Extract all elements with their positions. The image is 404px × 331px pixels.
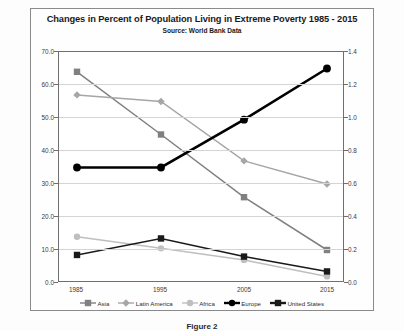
- y-axis-right-tick: 0.2: [348, 246, 374, 253]
- legend-label: Africa: [199, 300, 215, 307]
- legend-item-latin-america[interactable]: Latin America: [118, 299, 172, 307]
- y-axis-right-tick: 0.8: [348, 147, 374, 154]
- data-point: [275, 300, 281, 306]
- data-point: [323, 180, 330, 187]
- data-point: [85, 300, 91, 306]
- figure-caption: Figure 2: [0, 322, 404, 331]
- data-point: [74, 69, 80, 75]
- chart-legend: AsiaLatin AmericaAfricaEuropeUnited Stat…: [30, 299, 374, 307]
- legend-marker-circle-icon: [182, 299, 198, 307]
- legend-label: Europe: [241, 300, 261, 307]
- y-axis-right-tick: 0.0: [348, 279, 374, 286]
- y-axis-right-tick: 1.2: [348, 81, 374, 88]
- gridline: [59, 150, 343, 151]
- gridline: [59, 117, 343, 118]
- y-axis-left-tick: 50.0: [14, 114, 54, 121]
- x-axis-tick: 1995: [153, 286, 167, 293]
- y-axis-right-tick: 1.0: [348, 114, 374, 121]
- data-point: [241, 253, 247, 259]
- legend-item-africa[interactable]: Africa: [182, 299, 215, 307]
- y-axis-left-tick: 0.0: [14, 279, 54, 286]
- legend-label: Asia: [97, 300, 109, 307]
- data-point: [241, 194, 247, 200]
- legend-item-asia[interactable]: Asia: [80, 299, 109, 307]
- data-point: [123, 299, 130, 306]
- gridline: [59, 216, 343, 217]
- legend-label: United States: [287, 300, 324, 307]
- chart-title: Changes in Percent of Population Living …: [30, 14, 374, 24]
- legend-label: Latin America: [136, 300, 173, 307]
- data-point: [158, 235, 164, 241]
- y-axis-right-tick: 0.6: [348, 180, 374, 187]
- x-axis-tick: 2005: [237, 286, 251, 293]
- data-point: [229, 300, 235, 306]
- series-africa: [74, 234, 330, 280]
- y-axis-left-tick: 20.0: [14, 213, 54, 220]
- y-axis-left-tick: 10.0: [14, 246, 54, 253]
- data-point: [323, 65, 331, 73]
- legend-marker-square-icon: [80, 299, 96, 307]
- data-point: [73, 91, 80, 98]
- y-axis-left-tick: 40.0: [14, 147, 54, 154]
- x-axis-tick: 2015: [320, 286, 334, 293]
- data-point: [157, 164, 165, 172]
- legend-marker-circle-icon: [224, 299, 240, 307]
- y-axis-left-tick: 30.0: [14, 180, 54, 187]
- data-point: [324, 268, 330, 274]
- series-asia: [74, 69, 330, 254]
- x-axis-tick: 1985: [69, 286, 83, 293]
- plot-area: [58, 51, 344, 282]
- chart-page: Changes in Percent of Population Living …: [0, 0, 404, 331]
- series-line: [77, 237, 327, 277]
- data-point: [73, 164, 81, 172]
- data-point: [324, 247, 330, 253]
- series-line: [77, 238, 327, 271]
- legend-marker-square-icon: [270, 299, 286, 307]
- y-axis-right-tick: 1.4: [348, 48, 374, 55]
- y-axis-left-tick: 70.0: [14, 48, 54, 55]
- gridline: [59, 249, 343, 250]
- data-point: [74, 252, 80, 258]
- data-point: [74, 234, 80, 240]
- y-axis-left-tickmark: [54, 282, 58, 283]
- series-line: [77, 95, 327, 184]
- chart-subtitle: Source: World Bank Data: [30, 27, 374, 34]
- legend-marker-diamond-icon: [118, 299, 134, 307]
- y-axis-left-tick: 60.0: [14, 81, 54, 88]
- data-point: [187, 300, 193, 306]
- gridline: [59, 183, 343, 184]
- data-point: [158, 131, 164, 137]
- gridline: [59, 84, 343, 85]
- series-latin-america: [73, 91, 330, 188]
- legend-item-united-states[interactable]: United States: [270, 299, 324, 307]
- y-axis-right-tick: 0.4: [348, 213, 374, 220]
- series-europe: [73, 65, 331, 172]
- legend-item-europe[interactable]: Europe: [224, 299, 261, 307]
